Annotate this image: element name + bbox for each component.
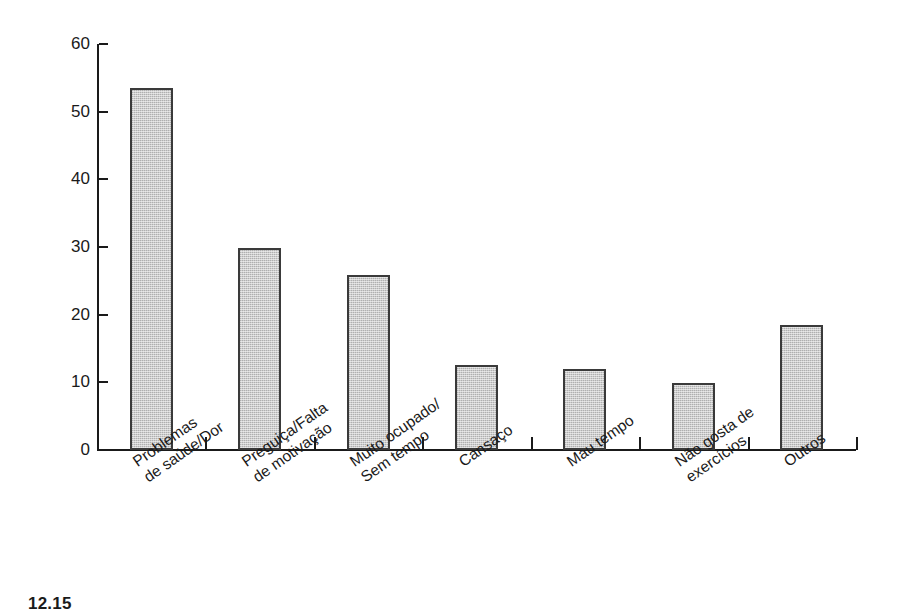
y-axis-tick-label: 40 <box>50 170 90 187</box>
y-axis-tick-label-wrap: 10 <box>50 373 90 390</box>
bar-chart-figure: Porcentagem 0102030405060 Problemasde sa… <box>0 0 898 609</box>
y-axis-tick-label-wrap: 30 <box>50 238 90 255</box>
y-axis-tick-label-wrap: 50 <box>50 103 90 120</box>
y-axis-tick-label: 60 <box>50 35 90 52</box>
bar <box>130 88 173 450</box>
y-axis-tick-label: 30 <box>50 238 90 255</box>
y-axis-tick-label: 10 <box>50 373 90 390</box>
y-axis-tick-label-wrap: 20 <box>50 306 90 323</box>
y-axis-tick-label: 0 <box>50 441 90 458</box>
y-axis-tick-label-wrap: 60 <box>50 35 90 52</box>
y-axis-tick-label-wrap: 40 <box>50 170 90 187</box>
y-axis-tick-label-wrap: 0 <box>50 441 90 458</box>
y-axis-tick-label: 20 <box>50 306 90 323</box>
bar <box>347 275 390 450</box>
y-axis-tick-label: 50 <box>50 103 90 120</box>
bar <box>238 248 281 450</box>
x-axis-tick <box>856 437 858 450</box>
plot-area <box>97 44 855 450</box>
figure-caption: 12.15 <box>28 594 72 609</box>
